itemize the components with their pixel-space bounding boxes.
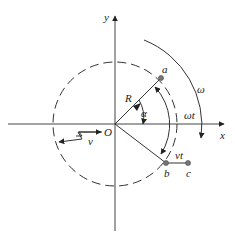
radius-line-a (115, 78, 161, 124)
omega-label: ω (197, 83, 205, 95)
point-b-label: b (164, 167, 170, 179)
point-b (164, 161, 169, 166)
x-axis-label: x (219, 129, 225, 141)
diagram-canvas: x y O R α ω ωt v vt a b c (0, 0, 235, 239)
point-c (186, 161, 191, 166)
point-a (159, 76, 164, 81)
omega-arc (144, 40, 202, 138)
velocity-label: v (88, 135, 93, 147)
y-axis-label: y (103, 11, 109, 23)
alpha-label: α (141, 107, 147, 119)
omega-t-arc (155, 87, 170, 154)
omega-t-label: ωt (184, 109, 196, 121)
point-a-label: a (162, 63, 168, 75)
point-c-label: c (186, 167, 191, 179)
radius-line-b (115, 124, 166, 163)
radius-label: R (124, 92, 132, 104)
origin-label: O (104, 126, 112, 138)
vt-label: vt (175, 149, 184, 161)
